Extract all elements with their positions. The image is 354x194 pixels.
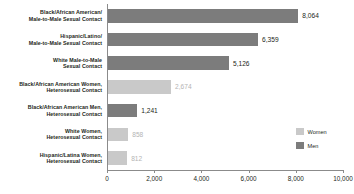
bar-category-label: Hispanic/Latina Women,Heterosexual Conta… [0,146,102,170]
bar-1[interactable] [108,9,298,23]
bar-category-label-line: Male-to-Male Sexual Contact [29,40,102,46]
bar-category-label-line: Heterosexual Contact [46,111,102,117]
bar-category-label-line: Heterosexual Contact [46,134,102,140]
bar-7[interactable] [108,151,127,165]
bar-category-label-line: Sexual Contact [63,63,102,69]
x-axis-tick [201,170,202,173]
bar-value-label: 812 [131,146,142,170]
x-axis-tick-label: 4,000 [193,175,209,182]
bar-category-label: Black/African American Men,Heterosexual … [0,99,102,123]
bar-category-label: White Women,Heterosexual Contact [0,123,102,147]
bar-value-label: 858 [132,123,143,147]
bar-category-label-line: Male-to-Male Sexual Contact [29,16,102,22]
legend-label-men: Men [308,143,319,149]
bar-value-label: 8,064 [302,4,319,28]
x-axis-tick [343,170,344,173]
x-axis-tick-label: 8,000 [288,175,304,182]
chart-row: Hispanic/Latino/Male-to-Male Sexual Cont… [0,28,354,52]
legend-label-women: Women [308,129,327,135]
chart-row: Black/African American/Male-to-Male Sexu… [0,4,354,28]
x-axis-ticks: 02,0004,0006,0008,00010,000 [0,170,354,194]
chart-legend: Women Men [296,126,348,154]
chart-row: Black/African American Women,Heterosexua… [0,75,354,99]
x-axis-tick [154,170,155,173]
bar-category-label: Black/African American/Male-to-Male Sexu… [0,4,102,28]
x-axis-tick [249,170,250,173]
legend-item-men[interactable]: Men [296,140,348,151]
legend-swatch-men-icon [296,142,304,150]
bar-4[interactable] [108,80,171,94]
bar-5[interactable] [108,104,137,118]
chart-row: White Male-to-MaleSexual Contact5,126 [0,51,354,75]
x-axis-tick-label: 10,000 [333,175,353,182]
chart-row: Black/African American Men,Heterosexual … [0,99,354,123]
bar-value-label: 6,359 [262,28,279,52]
x-axis-tick [296,170,297,173]
bar-value-label: 5,126 [233,51,250,75]
x-axis-tick-label: 6,000 [241,175,257,182]
bar-category-label: Hispanic/Latino/Male-to-Male Sexual Cont… [0,28,102,52]
bar-2[interactable] [108,33,258,47]
legend-item-women[interactable]: Women [296,126,348,137]
legend-swatch-women-icon [296,128,304,136]
bar-3[interactable] [108,56,229,70]
bar-category-label-line: Heterosexual Contact [46,87,102,93]
x-axis-tick [107,170,108,173]
bar-category-label: White Male-to-MaleSexual Contact [0,51,102,75]
x-axis-tick-label: 2,000 [146,175,162,182]
x-axis-tick-label: 0 [105,175,109,182]
bar-chart: Black/African American/Male-to-Male Sexu… [0,0,354,194]
bar-category-label: Black/African American Women,Heterosexua… [0,75,102,99]
bar-category-label-line: Heterosexual Contact [46,158,102,164]
bar-6[interactable] [108,128,128,142]
bar-value-label: 1,241 [141,99,158,123]
bar-value-label: 2,674 [175,75,192,99]
